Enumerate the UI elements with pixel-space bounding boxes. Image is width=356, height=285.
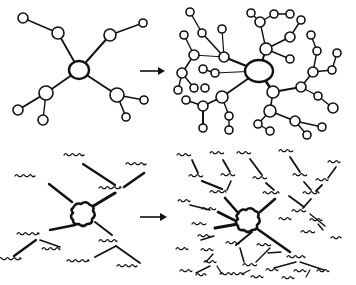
word-squiggle xyxy=(17,233,39,235)
connector-line xyxy=(256,248,270,262)
word-squiggle xyxy=(176,248,188,250)
node-circle xyxy=(286,10,294,18)
node-circle xyxy=(297,16,305,24)
word-squiggle xyxy=(99,187,121,189)
word-squiggle xyxy=(99,240,117,242)
node-circle xyxy=(190,84,198,92)
node-circle xyxy=(267,86,279,98)
connector-line xyxy=(242,270,250,274)
connector-line xyxy=(274,262,296,268)
node-circle xyxy=(286,55,294,63)
connector-line xyxy=(256,228,290,252)
node-circle xyxy=(52,27,64,39)
node-circle xyxy=(199,65,207,73)
connector-line xyxy=(227,181,231,190)
node-circle xyxy=(314,92,322,100)
arrow-head-icon xyxy=(160,213,167,221)
node-circle xyxy=(318,123,326,131)
connector-line xyxy=(83,164,115,185)
word-squiggle xyxy=(192,223,206,225)
connector-line xyxy=(95,246,116,257)
concept-blob xyxy=(71,202,95,226)
word-squiggle xyxy=(196,274,206,276)
growth-diagram xyxy=(0,0,356,285)
word-squiggle xyxy=(292,210,306,212)
connector-line xyxy=(196,266,210,273)
word-squiggle xyxy=(316,179,328,181)
connector-line xyxy=(14,240,36,256)
simple-network-panel xyxy=(13,13,148,125)
node-circle xyxy=(264,105,276,117)
node-circle xyxy=(140,96,148,104)
connector-line xyxy=(260,199,275,212)
connector-line xyxy=(289,196,304,207)
node-circle xyxy=(216,91,228,103)
connector-line xyxy=(202,181,222,189)
complex-network-panel xyxy=(174,8,341,139)
node-circle xyxy=(199,124,207,132)
word-squiggle xyxy=(126,163,146,165)
connector-line xyxy=(215,224,238,228)
word-squiggle xyxy=(266,269,278,271)
node-circle xyxy=(328,103,338,113)
node-circle xyxy=(189,50,199,60)
word-squiggle xyxy=(253,177,267,179)
connector-line xyxy=(250,159,262,175)
word-squiggle xyxy=(279,218,291,220)
hub-node xyxy=(69,61,89,79)
arrow-head-icon xyxy=(158,67,165,75)
word-squiggle xyxy=(198,235,210,237)
word-squiggle xyxy=(232,273,244,275)
word-squiggle xyxy=(221,174,235,176)
node-circle xyxy=(180,31,188,39)
word-squiggle xyxy=(180,270,192,272)
node-circle xyxy=(182,96,190,104)
node-circle xyxy=(285,32,295,42)
connector-line xyxy=(304,182,311,190)
word-squiggle xyxy=(287,256,305,258)
connector-line xyxy=(318,224,323,230)
word-squiggle xyxy=(282,277,294,279)
connector-line xyxy=(50,225,75,230)
word-squiggle xyxy=(251,276,263,278)
complex-word-cluster-panel xyxy=(176,150,341,279)
word-squiggle xyxy=(303,192,319,194)
node-circle xyxy=(313,47,321,55)
word-squiggle xyxy=(67,260,89,262)
connector-line xyxy=(49,184,72,202)
word-squiggle xyxy=(15,175,35,177)
node-circle xyxy=(307,31,315,39)
word-squiggle xyxy=(328,161,340,163)
node-circle xyxy=(303,131,311,139)
node-circle xyxy=(254,120,262,128)
node-circle xyxy=(296,82,306,92)
node-circle xyxy=(39,86,53,100)
node-circle xyxy=(333,49,341,57)
connector-line xyxy=(240,248,244,262)
connector-line xyxy=(290,157,300,172)
word-squiggle xyxy=(189,175,203,177)
node-circle xyxy=(174,86,182,94)
word-squiggle xyxy=(0,258,21,260)
connector-line xyxy=(223,160,230,172)
word-squiggle xyxy=(178,200,190,202)
connector-line xyxy=(268,252,281,253)
word-squiggle xyxy=(331,237,341,239)
word-squiggle xyxy=(210,152,224,154)
node-circle xyxy=(18,13,28,23)
word-squiggle xyxy=(177,154,191,156)
connector-line xyxy=(95,222,112,235)
node-circle xyxy=(328,66,336,74)
node-circle xyxy=(198,29,206,37)
connector-line xyxy=(218,212,238,222)
node-circle xyxy=(218,25,226,33)
word-squiggle xyxy=(42,248,60,250)
word-squiggle xyxy=(201,249,213,251)
node-circle xyxy=(266,127,274,135)
node-circle xyxy=(225,112,233,120)
word-squiggle xyxy=(257,244,271,246)
word-squiggle xyxy=(263,192,279,194)
word-squiggle xyxy=(293,174,307,176)
node-circle xyxy=(13,105,23,115)
word-squiggle xyxy=(210,191,226,193)
